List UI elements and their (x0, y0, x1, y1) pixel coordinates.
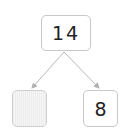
known-part-box: 8 (83, 90, 118, 127)
whole-number-box: 14 (41, 15, 91, 51)
arrow-to-left-part (32, 52, 64, 88)
missing-part-box[interactable] (12, 90, 47, 127)
arrow-to-right-part (64, 52, 99, 88)
whole-number: 14 (52, 22, 80, 44)
known-part-value: 8 (94, 98, 106, 120)
